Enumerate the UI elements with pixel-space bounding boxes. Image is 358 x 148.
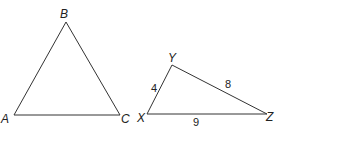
vertex-label-b: B — [60, 7, 68, 21]
vertex-label-z: Z — [265, 110, 274, 124]
side-length-yz: 8 — [225, 78, 231, 90]
vertex-label-y: Y — [168, 51, 177, 65]
triangle-xyz — [147, 65, 267, 114]
vertex-label-c: C — [121, 112, 130, 126]
side-length-xz: 9 — [193, 116, 199, 128]
vertex-label-x: X — [136, 111, 146, 125]
side-length-xy: 4 — [151, 82, 157, 94]
vertex-label-a: A — [0, 112, 9, 126]
similar-triangles-diagram: A B C X Y Z 4 8 9 — [0, 0, 358, 148]
triangle-abc — [14, 22, 120, 115]
